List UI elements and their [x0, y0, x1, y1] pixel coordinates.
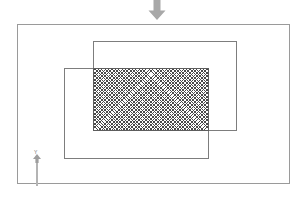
intersection-region [93, 68, 209, 131]
arrow-down-icon [146, 0, 168, 21]
y-axis-label: Y [34, 150, 37, 155]
arrow-up-icon [30, 150, 46, 164]
diagram-canvas: Y [0, 0, 308, 198]
y-axis-marker: Y [30, 150, 46, 186]
